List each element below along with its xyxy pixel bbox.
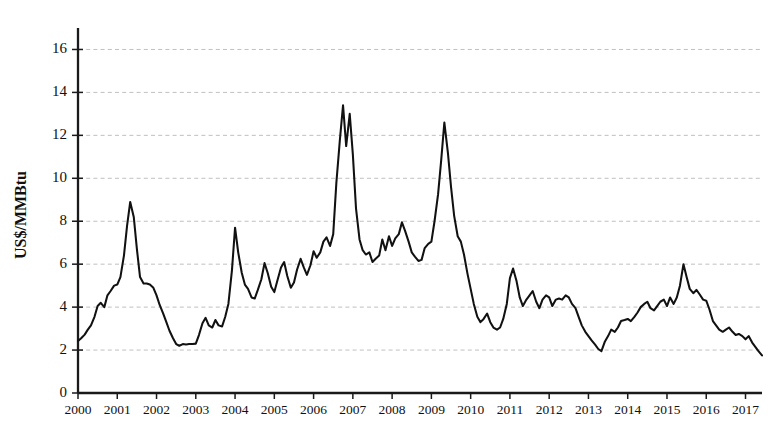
y-tick-label: 0 (60, 384, 68, 400)
x-tick-label: 2015 (653, 402, 680, 417)
x-tick-label: 2011 (497, 402, 524, 417)
y-tick-label: 8 (60, 212, 68, 228)
x-tick-label: 2012 (536, 402, 563, 417)
x-tick-label: 2002 (143, 402, 170, 417)
y-axis-title: US$/MMBtu (12, 171, 29, 259)
x-tick-label: 2016 (693, 402, 720, 417)
x-tick-label: 2004 (222, 402, 249, 417)
x-tick-label: 2003 (182, 402, 209, 417)
line-chart: 0246810121416200020012002200320042005200… (0, 0, 778, 445)
y-tick-label: 2 (60, 341, 68, 357)
y-tick-label: 6 (60, 255, 68, 271)
x-tick-label: 2009 (418, 402, 445, 417)
y-tick-label: 10 (52, 169, 67, 185)
x-tick-label: 2017 (732, 402, 759, 417)
x-tick-label: 2007 (339, 402, 366, 417)
x-tick-label: 2013 (575, 402, 602, 417)
x-tick-label: 2014 (614, 402, 641, 417)
x-tick-label: 2005 (261, 402, 288, 417)
data-series-line (78, 105, 762, 355)
y-tick-label: 12 (52, 126, 67, 142)
x-tick-label: 2008 (379, 402, 406, 417)
y-tick-label: 14 (52, 83, 68, 99)
chart-container: 0246810121416200020012002200320042005200… (0, 0, 778, 445)
x-tick-label: 2010 (457, 402, 484, 417)
x-tick-label: 2000 (65, 402, 92, 417)
y-tick-label: 4 (60, 298, 68, 314)
x-tick-label: 2006 (300, 402, 327, 417)
x-tick-label: 2001 (104, 402, 131, 417)
y-tick-label: 16 (52, 40, 68, 56)
